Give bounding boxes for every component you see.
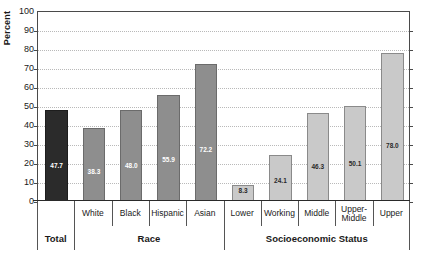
- category-separator-edge-0: [37, 201, 38, 226]
- bar-chart: Percent 1009080706050403020100 47.738.34…: [0, 0, 421, 253]
- category-label-black: Black: [112, 201, 149, 226]
- category-separator-3: [149, 201, 150, 226]
- category-label-uppermiddle: Upper- Middle: [335, 201, 372, 226]
- y-tick-90: 90: [12, 26, 34, 35]
- bar-total: 47.7: [45, 110, 67, 201]
- y-tick-30: 30: [12, 140, 34, 149]
- y-tick-70: 70: [12, 64, 34, 73]
- bar-value-upper: 78.0: [382, 143, 402, 150]
- category-label-middle: Middle: [298, 201, 335, 226]
- category-separator-8: [335, 201, 336, 226]
- y-tick-60: 60: [12, 83, 34, 92]
- category-label-lower: Lower: [224, 201, 261, 226]
- y-tick-40: 40: [12, 121, 34, 130]
- bar-value-middle: 46.3: [308, 164, 328, 171]
- category-label-text: Working: [264, 209, 295, 218]
- category-separator-2: [112, 201, 113, 226]
- category-label-text: Asian: [194, 209, 215, 218]
- bar-black: 48.0: [120, 110, 142, 201]
- y-tickmark-right-90: [409, 31, 413, 32]
- bar-value-total: 47.7: [46, 163, 66, 170]
- y-tickmark-right-20: [409, 164, 413, 165]
- plot-area: 47.738.348.055.972.28.324.146.350.178.0: [37, 11, 410, 201]
- y-tickmark-right-50: [409, 107, 413, 108]
- category-label-text: Upper- Middle: [341, 205, 367, 223]
- category-separator-1: [74, 201, 75, 226]
- group-label-total: Total: [37, 226, 74, 250]
- group-label-ses: Socioeconomic Status: [224, 226, 411, 250]
- category-separator-9: [373, 201, 374, 226]
- group-separator-2: [224, 226, 225, 250]
- bar-value-black: 48.0: [121, 163, 141, 170]
- category-separator-4: [186, 201, 187, 226]
- bar-value-hispanic: 55.9: [158, 157, 178, 164]
- group-separator-0: [37, 226, 38, 250]
- y-tick-0: 0: [12, 197, 34, 206]
- category-label-row: WhiteBlackHispanicAsianLowerWorkingMiddl…: [37, 201, 410, 226]
- group-separator-1: [74, 226, 75, 250]
- category-label-text: Middle: [304, 209, 329, 218]
- group-separator-end: [409, 226, 410, 250]
- category-label-text: Lower: [231, 209, 254, 218]
- bar-value-uppermiddle: 50.1: [345, 161, 365, 168]
- bar-value-asian: 72.2: [196, 147, 216, 154]
- y-tick-100: 100: [12, 7, 34, 16]
- bar-middle: 46.3: [307, 113, 329, 201]
- group-label-race: Race: [74, 226, 223, 250]
- category-label-text: White: [82, 209, 104, 218]
- y-tick-20: 20: [12, 159, 34, 168]
- category-separator-5: [224, 201, 225, 226]
- category-separator-7: [298, 201, 299, 226]
- bar-asian: 72.2: [195, 64, 217, 201]
- bar-uppermiddle: 50.1: [344, 106, 366, 201]
- y-tick-50: 50: [12, 102, 34, 111]
- y-tickmark-right-40: [409, 126, 413, 127]
- category-separator-6: [261, 201, 262, 226]
- bar-value-white: 38.3: [84, 169, 104, 176]
- bar-lower: 8.3: [232, 185, 254, 201]
- bar-value-working: 24.1: [270, 178, 290, 185]
- bar-white: 38.3: [83, 128, 105, 201]
- y-axis-title: Percent: [2, 0, 12, 68]
- y-tickmark-right-10: [409, 183, 413, 184]
- category-label-total: [37, 201, 74, 226]
- category-label-text: Upper: [380, 209, 403, 218]
- bars-container: 47.738.348.055.972.28.324.146.350.178.0: [38, 12, 409, 201]
- category-label-asian: Asian: [186, 201, 223, 226]
- y-tickmark-right-30: [409, 145, 413, 146]
- category-label-hispanic: Hispanic: [149, 201, 186, 226]
- y-tickmark-right-60: [409, 88, 413, 89]
- bar-hispanic: 55.9: [157, 95, 179, 201]
- category-label-text: Hispanic: [151, 209, 184, 218]
- category-label-text: Black: [120, 209, 141, 218]
- y-tick-10: 10: [12, 178, 34, 187]
- category-label-working: Working: [261, 201, 298, 226]
- category-separator-edge-10: [409, 201, 410, 226]
- y-axis-tick-labels: 1009080706050403020100: [12, 0, 34, 253]
- bar-upper: 78.0: [381, 53, 403, 201]
- category-label-white: White: [74, 201, 111, 226]
- group-label-row: TotalRaceSocioeconomic Status: [37, 226, 410, 250]
- bar-value-lower: 8.3: [233, 188, 253, 195]
- y-tickmark-right-80: [409, 50, 413, 51]
- y-tick-80: 80: [12, 45, 34, 54]
- y-tickmark-right-70: [409, 69, 413, 70]
- bar-working: 24.1: [269, 155, 291, 201]
- category-label-upper: Upper: [373, 201, 410, 226]
